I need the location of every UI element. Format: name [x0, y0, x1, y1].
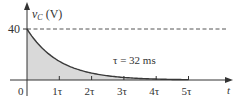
x-tick-label-3: 3τ [117, 86, 127, 97]
x-tick-label-2: 2τ [85, 86, 95, 97]
tau-annotation: τ = 32 ms [113, 55, 156, 66]
y-tick-label-40: 40 [8, 23, 20, 35]
x-axis-label: t [227, 85, 230, 96]
x-tick-label-1: 1τ [52, 86, 62, 97]
x-axis-arrow-icon [225, 77, 233, 83]
x-tick-label-4: 4τ [149, 86, 159, 97]
x-tick-label-5: 5τ [182, 86, 192, 97]
area-under-curve [27, 29, 189, 80]
y-axis-arrow-icon [24, 2, 30, 10]
y-axis-label: vC (V) [32, 8, 62, 22]
y-axis-sub: C [37, 13, 42, 22]
y-axis-unit: (V) [46, 7, 63, 21]
x-tick-label-0: 0 [18, 86, 24, 97]
